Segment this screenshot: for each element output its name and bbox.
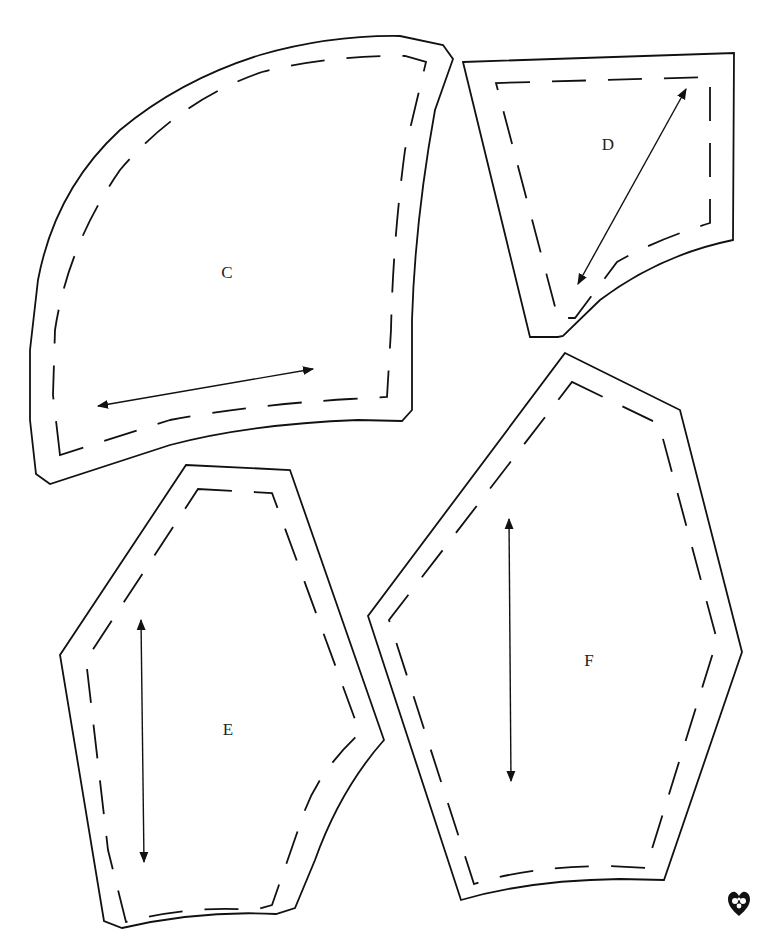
pattern-piece-e: E	[60, 465, 384, 928]
heart-ornament-icon	[726, 888, 752, 918]
sewing-line	[53, 56, 426, 455]
cutting-line	[60, 465, 384, 928]
sewing-line	[496, 77, 710, 318]
piece-label: D	[602, 135, 614, 154]
cutting-line	[368, 353, 742, 900]
piece-label: C	[221, 263, 232, 282]
piece-label: F	[584, 651, 593, 670]
sewing-line	[389, 382, 717, 884]
grainline-arrow-icon	[98, 369, 313, 406]
pattern-piece-c: C	[30, 36, 453, 484]
grainline-arrow-icon	[141, 620, 144, 862]
pattern-canvas: CDEF	[0, 0, 761, 940]
pattern-piece-d: D	[463, 53, 734, 337]
grainline-arrow-icon	[578, 89, 686, 284]
cutting-line	[463, 53, 734, 337]
cutting-line	[30, 36, 453, 484]
piece-label: E	[223, 720, 233, 739]
pattern-piece-f: F	[368, 353, 742, 900]
grainline-arrow-icon	[509, 519, 511, 781]
